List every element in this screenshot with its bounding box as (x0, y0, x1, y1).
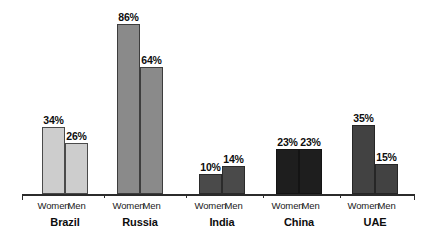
bar-india-women (199, 174, 222, 194)
bar-value-label: 15% (369, 151, 404, 163)
bar-uae-men (375, 164, 398, 194)
bar-value-label: 26% (59, 130, 94, 142)
bar-value-label: 14% (216, 153, 251, 165)
bar-china-women (276, 149, 299, 194)
bar-chart: 34%26%86%64%10%14%23%23%35%15% WomenMenW… (0, 0, 436, 240)
axis-tick (186, 194, 187, 198)
bar-value-label: 64% (134, 54, 169, 66)
axis-tick (104, 194, 105, 198)
bar-russia-women (117, 24, 140, 194)
bar-value-label: 34% (36, 114, 71, 126)
bar-russia-men (140, 67, 163, 194)
axis-tick (263, 194, 264, 198)
bar-china-men (299, 149, 322, 194)
series-label-men: Men (291, 200, 330, 211)
series-label-men: Men (367, 200, 406, 211)
axis-tick (340, 194, 341, 198)
plot-area: 34%26%86%64%10%14%23%23%35%15% WomenMenW… (0, 0, 436, 240)
category-label-uae: UAE (330, 216, 420, 228)
series-label-men: Men (132, 200, 171, 211)
series-label-men: Men (214, 200, 253, 211)
bar-brazil-men (65, 143, 88, 194)
series-label-men: Men (57, 200, 96, 211)
category-label-russia: Russia (95, 216, 185, 228)
bar-value-label: 35% (346, 112, 381, 124)
axis-tick (414, 194, 415, 200)
x-axis-line (22, 194, 414, 196)
axis-tick (22, 194, 23, 200)
bar-value-label: 86% (111, 11, 146, 23)
bar-value-label: 23% (293, 136, 328, 148)
